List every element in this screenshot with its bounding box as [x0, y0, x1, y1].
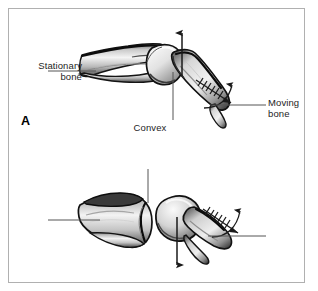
figure-illustration: Stationary bone Moving bone Convex A — [0, 0, 318, 291]
moving-bone-a — [172, 50, 230, 128]
panel-a: Stationary bone Moving bone Convex A — [0, 0, 318, 145]
panel-b-artwork — [0, 145, 318, 291]
panel-marker-a: A — [21, 114, 30, 128]
label-line-1: Stationary — [38, 60, 82, 71]
label-line-2: bone — [268, 108, 290, 119]
label-moving-bone-a: Moving bone — [268, 97, 299, 119]
label-line-2: bone — [60, 71, 82, 82]
label-stationary-bone-a: Stationary bone — [38, 60, 82, 82]
moving-bone-b — [156, 196, 232, 264]
label-line-1: Moving — [268, 97, 299, 108]
label-convex: Convex — [110, 122, 190, 133]
panel-b: Stationary bone Moving bone Concave B — [0, 145, 318, 291]
